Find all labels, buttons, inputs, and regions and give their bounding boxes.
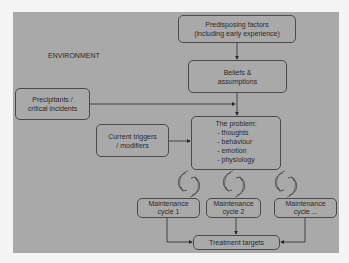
problem-item: - behaviour <box>217 137 254 146</box>
cycle-icon-1 <box>178 171 199 197</box>
node-cycle3-line2: cycle ... <box>294 208 318 216</box>
node-cycle2-line1: Maintenance <box>213 200 253 208</box>
node-current-triggers: Current triggers / modifiers <box>96 124 169 157</box>
problem-item: - emotion <box>217 146 254 155</box>
node-predisposing-line2: (including early experience) <box>194 29 280 38</box>
node-treatment-targets: Treatment targets <box>193 235 280 250</box>
node-cycle1-line1: Maintenance <box>148 200 188 208</box>
node-maintenance-cycle-2: Maintenance cycle 2 <box>206 198 261 218</box>
node-treatment-label: Treatment targets <box>209 238 264 247</box>
node-beliefs-line1: Beliefs & <box>224 68 252 77</box>
node-beliefs-assumptions: Beliefs & assumptions <box>188 60 287 93</box>
cycle-icon-2 <box>223 171 244 197</box>
node-precipitants-line2: critical incidents <box>28 104 77 113</box>
node-problem-title: The problem: <box>215 119 256 128</box>
environment-label: ENVIRONMENT <box>48 52 100 59</box>
node-triggers-line1: Current triggers <box>108 132 157 141</box>
connector-lines <box>0 0 349 263</box>
node-maintenance-cycle-n: Maintenance cycle ... <box>274 198 337 218</box>
node-cycle3-line1: Maintenance <box>285 200 325 208</box>
node-predisposing-factors: Predisposing factors (including early ex… <box>178 15 296 43</box>
node-the-problem: The problem: - thoughts - behaviour - em… <box>191 116 281 170</box>
problem-item: - thoughts <box>217 128 254 137</box>
problem-item: - physiology <box>217 155 254 164</box>
node-problem-items: - thoughts - behaviour - emotion - physi… <box>217 128 254 164</box>
node-cycle1-line2: cycle 1 <box>158 208 180 216</box>
node-precipitants: Precipitants / critical incidents <box>15 88 90 120</box>
node-predisposing-line1: Predisposing factors <box>205 20 268 29</box>
node-maintenance-cycle-1: Maintenance cycle 1 <box>137 198 200 218</box>
node-cycle2-line2: cycle 2 <box>223 208 245 216</box>
node-beliefs-line2: assumptions <box>218 77 257 86</box>
node-precipitants-line1: Precipitants / <box>32 95 72 104</box>
cycle-icon-3 <box>275 171 296 197</box>
node-triggers-line2: / modifiers <box>116 141 148 150</box>
